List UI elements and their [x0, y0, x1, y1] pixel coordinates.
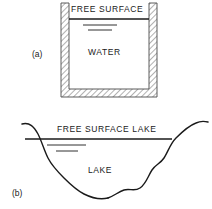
- lake-left-bank: [22, 124, 108, 199]
- diagram-canvas: [0, 0, 212, 209]
- panel-b-tag: (b): [12, 188, 22, 198]
- lake-body-label: LAKE: [88, 165, 112, 175]
- tank-free-surface-label: FREE SURFACE: [71, 4, 143, 14]
- tank-ripple-marks: [83, 25, 117, 30]
- tank-body-label: WATER: [88, 47, 121, 57]
- panel-a-tag: (a): [32, 49, 42, 59]
- lake-ripple-marks: [47, 145, 86, 151]
- figure-free-surface-diagram: FREE SURFACE WATER (a) FREE SURFACE LAKE…: [0, 0, 212, 209]
- lake-free-surface-label: FREE SURFACE LAKE: [57, 124, 156, 134]
